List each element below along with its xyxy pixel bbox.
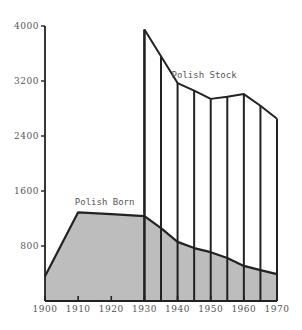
x-tick-label: 1970 [265, 304, 290, 314]
y-tick-label: 2400 [14, 131, 39, 141]
x-tick-label: 1950 [198, 304, 223, 314]
y-tick-label: 1600 [14, 186, 39, 196]
series-label: Polish Born [75, 197, 135, 207]
y-tick-label: 800 [20, 241, 39, 251]
y-tick-label: 3200 [14, 76, 39, 86]
x-tick-label: 1900 [33, 304, 58, 314]
y-tick-label: 4000 [14, 21, 39, 31]
series-label: Polish Stock [172, 70, 238, 80]
x-tick-label: 1940 [165, 304, 190, 314]
x-tick-label: 1910 [66, 304, 91, 314]
x-tick-label: 1960 [231, 304, 256, 314]
x-tick-label: 1920 [99, 304, 124, 314]
x-tick-label: 1930 [132, 304, 157, 314]
series-labels: Polish BornPolish Stock [75, 70, 237, 207]
y-axis-ticks: 8001600240032004000 [14, 21, 45, 251]
chart: 8001600240032004000 19001910192019301940… [0, 0, 302, 330]
